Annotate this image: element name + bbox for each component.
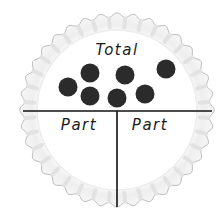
part-left-label: Part — [61, 116, 97, 134]
total-label: Total — [95, 41, 138, 59]
counter-dot — [108, 89, 127, 108]
paper-plate-diagram: Total Part Part — [0, 0, 222, 219]
counter-dot — [136, 85, 155, 104]
counter-dot — [81, 64, 100, 83]
counter-dot — [116, 66, 135, 85]
part-part-whole-mat: Total Part Part — [0, 0, 222, 219]
counter-dot — [157, 60, 176, 79]
counter-dot — [81, 87, 100, 106]
part-right-label: Part — [132, 116, 168, 134]
counter-dot — [59, 78, 78, 97]
